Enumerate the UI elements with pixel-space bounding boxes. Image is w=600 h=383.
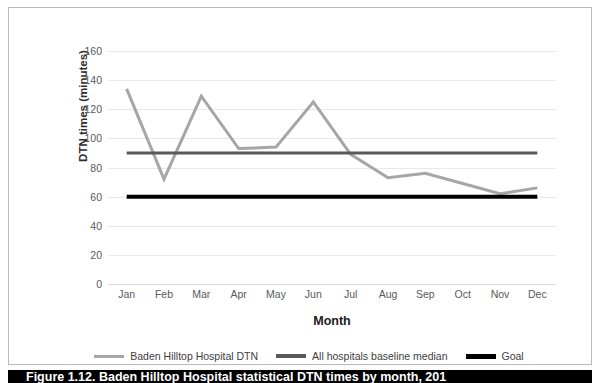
legend-swatch — [276, 354, 306, 358]
legend-swatch — [466, 354, 496, 359]
x-axis-tick: Apr — [219, 289, 259, 300]
y-axis-tick: 100 — [68, 133, 102, 144]
x-axis-tick: Dec — [517, 289, 557, 300]
y-axis-tick: 60 — [68, 191, 102, 202]
series-line — [127, 89, 538, 194]
chart-frame: DTN times (minutes) 02040608010012014016… — [8, 7, 592, 365]
legend-item[interactable]: Goal — [466, 350, 524, 362]
legend-item[interactable]: All hospitals baseline median — [276, 350, 447, 362]
gridline — [108, 284, 556, 285]
plot-area — [108, 51, 556, 284]
x-axis-tick-labels: JanFebMarAprMayJunJulAugSepOctNovDec — [108, 289, 556, 305]
y-axis-tick: 20 — [68, 250, 102, 261]
x-axis-tick: Sep — [405, 289, 445, 300]
x-axis-tick: Nov — [480, 289, 520, 300]
series-lines — [108, 51, 556, 284]
y-axis-tick-labels: 020406080100120140160 — [66, 51, 102, 284]
chart-legend: Baden Hilltop Hospital DTNAll hospitals … — [29, 350, 589, 362]
y-axis-tick: 80 — [68, 162, 102, 173]
x-axis-tick: Jun — [293, 289, 333, 300]
x-axis-tick: Mar — [181, 289, 221, 300]
x-axis-tick: Aug — [368, 289, 408, 300]
x-axis-tick: May — [256, 289, 296, 300]
y-axis-tick: 40 — [68, 221, 102, 232]
legend-label: Baden Hilltop Hospital DTN — [130, 350, 258, 362]
legend-label: Goal — [502, 350, 524, 362]
x-axis-tick: Feb — [144, 289, 184, 300]
y-axis-tick: 140 — [68, 75, 102, 86]
legend-label: All hospitals baseline median — [312, 350, 447, 362]
legend-swatch — [94, 355, 124, 358]
y-axis-tick: 120 — [68, 104, 102, 115]
x-axis-tick: Jan — [107, 289, 147, 300]
x-axis-tick: Oct — [443, 289, 483, 300]
figure-caption-text: Figure 1.12. Baden Hilltop Hospital stat… — [26, 371, 446, 383]
chart-page: DTN times (minutes) 02040608010012014016… — [0, 0, 600, 383]
legend-item[interactable]: Baden Hilltop Hospital DTN — [94, 350, 258, 362]
y-axis-tick: 0 — [68, 279, 102, 290]
x-axis-tick: Jul — [331, 289, 371, 300]
y-axis-tick: 160 — [68, 46, 102, 57]
x-axis-title: Month — [108, 314, 556, 328]
figure-caption-bar: Figure 1.12. Baden Hilltop Hospital stat… — [8, 370, 592, 383]
